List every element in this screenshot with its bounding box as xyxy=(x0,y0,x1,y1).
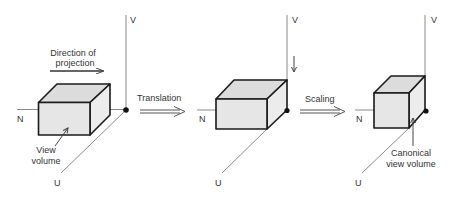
panel-original: V N U Direction of projection View volum… xyxy=(17,15,136,188)
transition-scaling: Scaling xyxy=(300,94,345,117)
double-arrow-icon xyxy=(334,107,345,117)
v-axis-label: V xyxy=(292,15,298,25)
canonical-label-line2: view volume xyxy=(386,159,436,169)
projection-label-line1: Direction of xyxy=(50,48,96,58)
v-axis-label: V xyxy=(130,15,136,25)
transition-translation: Translation xyxy=(137,93,185,117)
origin-dot xyxy=(284,108,289,113)
view-volume-label-line2: volume xyxy=(31,156,60,166)
scaling-label: Scaling xyxy=(305,94,335,104)
origin-dot xyxy=(423,108,428,113)
translated-box xyxy=(216,80,287,129)
translation-label: Translation xyxy=(137,93,181,103)
panel-scaled: V N U Canonical view volume xyxy=(355,15,437,188)
n-axis-label: N xyxy=(356,114,363,124)
v-axis-label: V xyxy=(431,15,437,25)
n-axis-label: N xyxy=(17,114,24,124)
double-arrow-icon xyxy=(174,107,185,117)
view-volume-box xyxy=(39,84,111,135)
n-axis-label: N xyxy=(199,114,206,124)
view-volume-diagram: V N U Direction of projection View volum… xyxy=(0,0,449,201)
u-axis-label: U xyxy=(54,178,61,188)
projection-label-line2: projection xyxy=(55,58,94,68)
origin-dot xyxy=(123,107,129,113)
diagram-canvas: V N U Direction of projection View volum… xyxy=(0,0,449,201)
u-axis-label: U xyxy=(215,178,222,188)
canonical-view-volume-box xyxy=(374,76,425,128)
panel-translated: V N U xyxy=(197,15,298,188)
view-volume-label-line1: View xyxy=(36,145,56,155)
canonical-label-line1: Canonical xyxy=(391,148,431,158)
u-axis xyxy=(222,129,267,173)
u-axis-label: U xyxy=(355,178,362,188)
